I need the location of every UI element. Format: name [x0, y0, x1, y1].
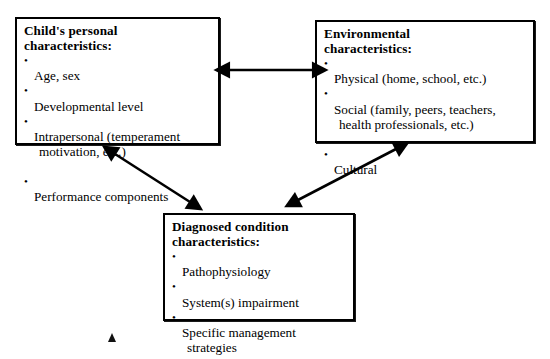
list-item: System(s) impairment	[172, 281, 346, 311]
box-environment-title: Environmental characteristics:	[324, 27, 526, 57]
list-item: Intrapersonal (temperament motivation, e…	[24, 115, 211, 175]
bullet-text: System(s) impairment	[182, 295, 299, 310]
list-item: Specific management strategies	[172, 311, 346, 359]
bullet-text: Performance components	[34, 189, 168, 204]
list-item: Pathophysiology	[172, 251, 346, 281]
bullet-text-continuation: motivation, etc.)	[34, 145, 211, 160]
list-item: Developmental level	[24, 85, 211, 115]
bullet-text: Cultural	[334, 162, 377, 177]
box-child-title: Child's personal characteristics:	[24, 24, 211, 54]
stray-triangle-icon	[108, 333, 116, 342]
box-environment-bullet-list: Physical (home, school, etc.) Social (fa…	[324, 58, 526, 178]
bullet-text: Developmental level	[34, 99, 144, 114]
box-child-bullet-list: Age, sex Developmental level Intraperson…	[24, 55, 211, 206]
bullet-text-continuation: health professionals, etc.)	[334, 118, 526, 133]
bullet-text: Physical (home, school, etc.)	[334, 71, 486, 86]
box-diagnosed-condition-characteristics[interactable]: Diagnosed condition characteristics: Pat…	[163, 213, 355, 321]
box-environmental-characteristics[interactable]: Environmental characteristics: Physical …	[315, 20, 535, 143]
list-item: Social (family, peers, teachers, health …	[324, 88, 526, 148]
bullet-text-continuation: strategies	[182, 341, 346, 356]
bullet-text: Specific management	[182, 325, 296, 340]
box-diagnosed-title: Diagnosed condition characteristics:	[172, 220, 346, 250]
list-item: Cultural	[324, 148, 526, 178]
bullet-text: Social (family, peers, teachers,	[334, 102, 496, 117]
box-diagnosed-content: Diagnosed condition characteristics: Pat…	[165, 215, 353, 359]
list-item: Age, sex	[24, 55, 211, 85]
bullet-text: Intrapersonal (temperament	[34, 129, 180, 144]
list-item: Physical (home, school, etc.)	[324, 58, 526, 88]
bullet-text: Pathophysiology	[182, 264, 271, 279]
box-child-personal-characteristics[interactable]: Child's personal characteristics: Age, s…	[15, 17, 220, 145]
box-diagnosed-bullet-list: Pathophysiology System(s) impairment Spe…	[172, 251, 346, 359]
box-child-content: Child's personal characteristics: Age, s…	[17, 19, 218, 210]
box-environment-content: Environmental characteristics: Physical …	[317, 22, 533, 182]
list-item: Performance components	[24, 175, 211, 205]
bullet-text: Age, sex	[34, 68, 80, 83]
